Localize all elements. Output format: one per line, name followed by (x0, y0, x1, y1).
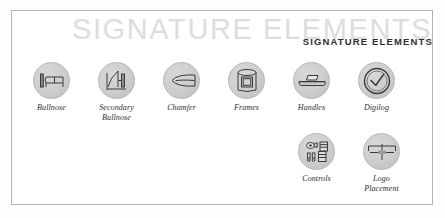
handles-icon (293, 62, 330, 99)
frames-icon (228, 62, 265, 99)
element-label: Digilog (364, 103, 389, 113)
element-label: Frames (234, 103, 259, 113)
element-digilog[interactable]: Digilog (344, 62, 409, 122)
element-handles[interactable]: Handles (279, 62, 344, 122)
element-chamfer[interactable]: Chamfer (149, 62, 214, 122)
primary-elements-row: Bullnose Secondary Bullnose (19, 62, 409, 122)
element-controls[interactable]: Controls (284, 133, 349, 193)
controls-icon (298, 133, 335, 170)
element-label: Controls (302, 174, 331, 184)
element-label: Secondary Bullnose (99, 103, 134, 122)
secondary-bullnose-icon (98, 62, 135, 99)
page-title: SIGNATURE ELEMENTS (303, 36, 433, 47)
logo-placement-icon (363, 133, 400, 170)
signature-elements-page: SIGNATURE ELEMENTS SIGNATURE ELEMENTS Bu… (0, 0, 445, 218)
element-label: Chamfer (167, 103, 196, 113)
element-label: Bullnose (37, 103, 66, 113)
digilog-icon (358, 62, 395, 99)
element-bullnose[interactable]: Bullnose (19, 62, 84, 122)
bullnose-icon (33, 62, 70, 99)
element-secondary-bullnose[interactable]: Secondary Bullnose (84, 62, 149, 122)
element-logo-placement[interactable]: Logo Placement (349, 133, 414, 193)
element-label: Handles (298, 103, 325, 113)
element-frames[interactable]: Frames (214, 62, 279, 122)
element-label: Logo Placement (364, 174, 399, 193)
chamfer-icon (163, 62, 200, 99)
secondary-elements-row: Controls Logo Placement (284, 133, 414, 193)
